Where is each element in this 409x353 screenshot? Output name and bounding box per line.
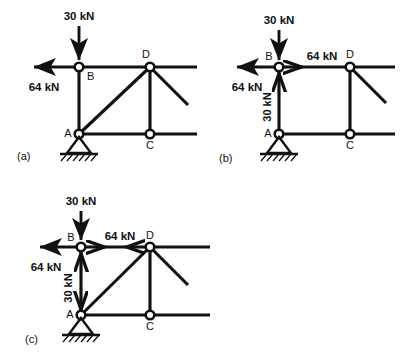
figure-canvas: 30 kN 64 kN B D A C (a)	[0, 0, 409, 353]
panel-c-action-reaction: 30 kN 64 kN 64 kN 30 kN B D A C (c)	[20, 185, 280, 353]
node-label-c: C	[346, 139, 354, 151]
label-internal-30kn: 30 kN	[261, 92, 273, 121]
node-label-b: B	[265, 50, 272, 62]
node-label-a: A	[66, 308, 74, 320]
node-d	[346, 63, 355, 72]
label-load-64kn: 64 kN	[29, 81, 60, 93]
label-load-30kn: 30 kN	[66, 195, 97, 207]
panel-tag-a: (a)	[17, 150, 30, 162]
node-label-d: D	[346, 48, 354, 60]
node-label-b: B	[67, 231, 74, 243]
node-d	[146, 63, 155, 72]
panel-a-full-truss: 30 kN 64 kN B D A C (a)	[0, 0, 205, 180]
label-internal-30kn: 30 kN	[62, 273, 74, 302]
node-b	[275, 63, 284, 72]
panel-b-member-removed: 30 kN 64 kN 64 kN 30 kN B D A C (b)	[205, 0, 409, 180]
node-label-d: D	[146, 229, 154, 241]
label-load-64kn: 64 kN	[31, 261, 62, 273]
node-label-c: C	[146, 320, 154, 332]
node-label-a: A	[264, 127, 272, 139]
node-label-a: A	[64, 127, 72, 139]
node-label-c: C	[146, 139, 154, 151]
member-d-diagonal-stub	[350, 67, 386, 103]
label-internal-64kn: 64 kN	[105, 230, 136, 242]
member-a-d-diagonal	[81, 247, 150, 315]
node-c	[146, 311, 155, 320]
panel-tag-b: (b)	[219, 152, 232, 164]
label-load-30kn: 30 kN	[64, 10, 95, 22]
panel-tag-c: (c)	[25, 333, 38, 345]
node-label-b: B	[87, 70, 94, 82]
member-d-diagonal-stub	[150, 67, 188, 105]
label-load-30kn: 30 kN	[264, 14, 295, 26]
node-c	[146, 130, 155, 139]
label-load-64kn: 64 kN	[232, 81, 263, 93]
label-internal-64kn: 64 kN	[307, 50, 338, 62]
node-label-d: D	[142, 48, 150, 60]
node-b	[75, 63, 84, 72]
node-b	[77, 243, 86, 252]
node-d	[146, 243, 155, 252]
member-d-diagonal-stub	[150, 247, 188, 285]
node-c	[346, 130, 355, 139]
